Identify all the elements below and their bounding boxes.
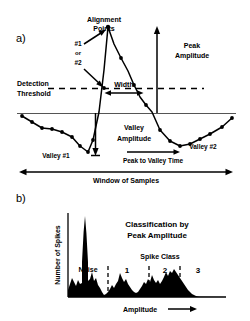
alignment-marker-2-label: #2 [74, 59, 82, 66]
valley-2-label: Valley #2 [189, 143, 217, 151]
noise-label: Noise [78, 266, 97, 273]
panel-a: a) [16, 16, 236, 185]
spike-class-3-label: 3 [196, 266, 201, 275]
peak-to-valley-time-arrow [127, 149, 180, 155]
spike-class-label: Spike Class [140, 253, 179, 261]
amplitude-direction-arrow [168, 306, 197, 312]
window-of-samples-arrow [19, 169, 233, 175]
peak-amplitude-label-line2: Amplitude [175, 52, 209, 60]
spike-class-1-label: 1 [125, 266, 130, 275]
peak-amplitude-arrow [154, 26, 160, 113]
alignment-marker-1-label: #1 [74, 40, 82, 47]
spike-class-2-label: 2 [163, 266, 168, 275]
panel-b: b) Classification by Peak Amplitude Numb… [16, 192, 226, 314]
width-label: Width [114, 81, 133, 88]
histogram-x-axis-label: Amplitude [123, 306, 157, 314]
peak-to-valley-time-label: Peak to Valley Time [123, 157, 184, 165]
alignment-point-2-arrow [84, 69, 104, 88]
alignment-points-label-line1: Alignment [87, 16, 122, 24]
spike-waveform [22, 27, 232, 152]
figure-root: a) [0, 0, 250, 321]
panel-a-letter: a) [16, 32, 26, 44]
detection-threshold-label-line2: Threshold [17, 90, 51, 97]
panel-b-letter: b) [16, 192, 26, 204]
valley-amplitude-label-line1: Valley [124, 124, 144, 132]
classification-title-line2: Peak Amplitude [127, 231, 187, 240]
window-of-samples-label: Window of Samples [93, 177, 159, 185]
detection-threshold-label-line1: Detection [17, 80, 49, 87]
valley-1-label: Valley #1 [42, 152, 70, 160]
alignment-marker-or-label: or [75, 50, 82, 56]
valley-amplitude-label-line2: Amplitude [117, 135, 151, 143]
valley-amplitude-arrow [91, 113, 100, 156]
histogram-y-axis-label: Number of Spikes [54, 225, 62, 285]
peak-amplitude-label-line1: Peak [184, 42, 200, 49]
figure-svg: a) [0, 0, 250, 321]
classification-title-line1: Classification by [125, 220, 189, 229]
width-double-arrow [105, 90, 144, 96]
